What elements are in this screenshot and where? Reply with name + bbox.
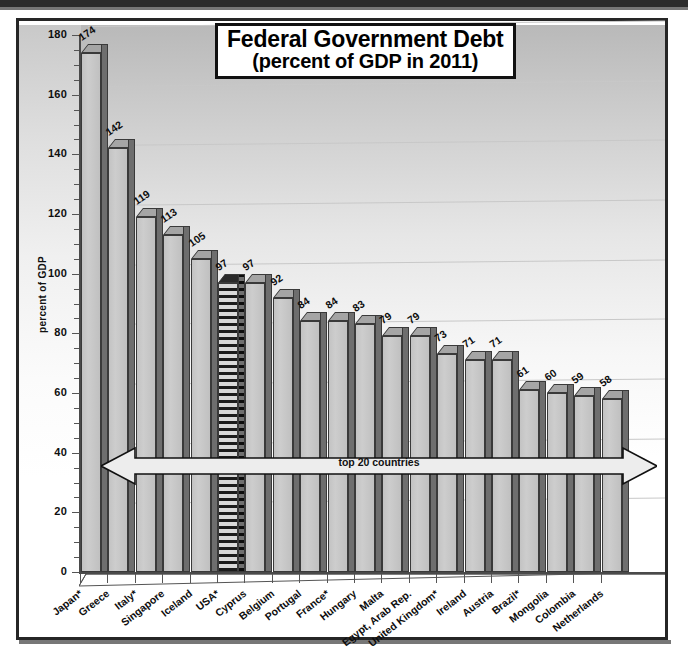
bar	[465, 21, 485, 572]
y-axis-minor-tick	[74, 229, 79, 230]
bar	[602, 21, 622, 572]
x-axis-tick	[162, 574, 163, 583]
y-axis-minor-tick	[74, 378, 79, 379]
y-axis-minor-tick	[74, 408, 79, 409]
x-axis-tick	[491, 574, 492, 583]
y-axis-minor-tick	[74, 50, 79, 51]
bar	[492, 21, 512, 572]
y-axis-minor-tick	[74, 497, 79, 498]
bar	[136, 21, 156, 572]
y-axis-tick-label: 20	[31, 505, 67, 517]
bar-side-face	[348, 312, 355, 572]
y-axis-minor-tick	[74, 184, 79, 185]
y-axis-minor-tick	[74, 125, 79, 126]
y-axis-tick	[72, 154, 80, 155]
bar	[519, 21, 539, 572]
x-axis-tick	[518, 574, 519, 583]
y-axis-tick	[72, 453, 80, 454]
y-axis-minor-tick	[74, 110, 79, 111]
x-axis-tick	[327, 574, 328, 583]
bar-front-face	[136, 217, 156, 572]
bar-front-face	[81, 53, 101, 572]
x-axis-tick	[354, 574, 355, 583]
y-axis-minor-tick	[74, 468, 79, 469]
bar	[410, 21, 430, 572]
x-axis-tick	[80, 574, 81, 583]
bar	[547, 21, 567, 572]
bar-front-face	[108, 148, 128, 572]
bar-side-face	[375, 315, 382, 572]
y-axis-minor-tick	[74, 557, 79, 558]
y-axis-minor-tick	[74, 259, 79, 260]
bar-side-face	[156, 208, 163, 572]
x-axis-tick	[409, 574, 410, 583]
scan-edge-band-secondary	[0, 7, 688, 10]
y-axis-title: percent of GDP	[37, 250, 48, 340]
x-axis-tick	[299, 574, 300, 583]
x-axis-tick	[244, 574, 245, 583]
plot-background-left	[19, 25, 83, 577]
y-axis-minor-tick	[74, 289, 79, 290]
bar-front-face	[163, 235, 183, 572]
y-axis-tick-label: 140	[31, 147, 67, 159]
bar-side-face	[183, 226, 190, 572]
x-axis-tick	[601, 574, 602, 583]
plot-area: 020406080100120140160180 percent of GDP …	[19, 21, 665, 637]
y-axis-tick	[72, 393, 80, 394]
y-axis-minor-tick	[74, 304, 79, 305]
bar	[108, 21, 128, 572]
y-axis-minor-tick	[74, 527, 79, 528]
y-axis-minor-tick	[74, 363, 79, 364]
y-axis-tick-label: 40	[31, 446, 67, 458]
chart-frame: 020406080100120140160180 percent of GDP …	[16, 18, 668, 640]
bar-front-face	[218, 283, 238, 572]
bar-side-face	[265, 274, 272, 572]
y-axis-minor-tick	[74, 169, 79, 170]
y-axis-minor-tick	[74, 244, 79, 245]
bar-side-face	[320, 312, 327, 572]
page-subtitle: (percent of GDP in 2011)	[227, 51, 504, 71]
y-axis-tick	[72, 333, 80, 334]
y-axis-minor-tick	[74, 318, 79, 319]
y-axis-tick-label: 180	[31, 28, 67, 40]
bar	[191, 21, 211, 572]
x-axis-category-label: Greece	[76, 587, 111, 618]
x-axis-tick	[135, 574, 136, 583]
bar	[382, 21, 402, 572]
page-title: Federal Government Debt	[227, 28, 504, 51]
bar	[245, 21, 265, 572]
x-axis-tick	[381, 574, 382, 583]
annotation-label: top 20 countries	[101, 456, 657, 468]
scan-edge-band-top	[0, 0, 688, 7]
bar	[355, 21, 375, 572]
bar-highlighted	[218, 21, 238, 572]
y-axis-tick	[72, 274, 80, 275]
y-axis-minor-tick	[74, 348, 79, 349]
y-axis-minor-tick	[74, 199, 79, 200]
bar-side-face	[101, 44, 108, 572]
bar-front-face	[273, 298, 293, 572]
y-axis-tick-label: 160	[31, 88, 67, 100]
y-axis-tick	[72, 95, 80, 96]
y-axis-tick	[72, 512, 80, 513]
bar	[81, 21, 101, 572]
x-axis-tick	[190, 574, 191, 583]
plot-floor-edge	[79, 572, 665, 588]
bar	[163, 21, 183, 572]
y-axis-minor-tick	[74, 80, 79, 81]
y-axis-tick-label: 0	[31, 565, 67, 577]
bar-side-face	[211, 250, 218, 572]
y-axis-minor-tick	[74, 139, 79, 140]
x-axis-tick	[546, 574, 547, 583]
y-axis-minor-tick	[74, 542, 79, 543]
top-20-annotation: top 20 countries	[101, 445, 657, 487]
y-axis-minor-tick	[74, 423, 79, 424]
bar	[273, 21, 293, 572]
bar-front-face	[245, 283, 265, 572]
x-axis-tick	[107, 574, 108, 583]
bar-front-face	[191, 259, 211, 572]
bar-side-face	[293, 289, 300, 572]
bar-side-face	[128, 139, 135, 572]
bar	[574, 21, 594, 572]
x-axis-tick	[573, 574, 574, 583]
